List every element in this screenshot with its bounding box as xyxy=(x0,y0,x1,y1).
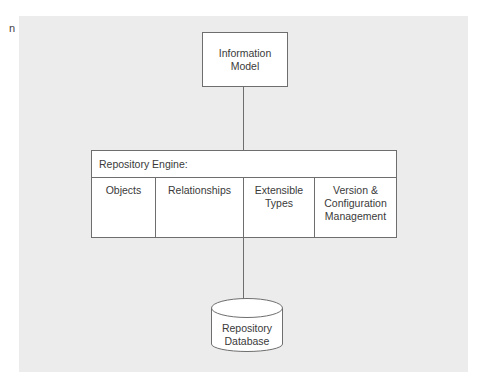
component-relationships: Relationships xyxy=(156,178,244,237)
connector-model-to-engine xyxy=(243,87,244,150)
component-label: Objects xyxy=(92,184,155,197)
connector-engine-to-database xyxy=(243,238,244,300)
repository-database-cylinder: Repository Database xyxy=(211,298,283,352)
component-label: Relationships xyxy=(156,184,243,197)
component-label: Management xyxy=(315,210,396,223)
component-label: Types xyxy=(244,197,314,210)
cropped-caption-fragment: n xyxy=(7,22,15,34)
information-model-box: Information Model xyxy=(202,32,288,87)
repository-engine-components: Objects Relationships Extensible Types V… xyxy=(92,178,396,237)
component-label: Configuration xyxy=(315,197,396,210)
repository-engine-title: Repository Engine: xyxy=(99,158,188,171)
repository-database-label-line-1: Repository xyxy=(211,322,283,335)
component-objects: Objects xyxy=(92,178,156,237)
repository-database-label: Repository Database xyxy=(211,322,283,348)
repository-database-label-line-2: Database xyxy=(211,335,283,348)
component-extensible-types: Extensible Types xyxy=(244,178,315,237)
component-version-configuration-management: Version & Configuration Management xyxy=(315,178,396,237)
component-label: Extensible xyxy=(244,184,314,197)
information-model-label-line-2: Model xyxy=(219,60,272,73)
component-label: Version & xyxy=(315,184,396,197)
information-model-label-line-1: Information xyxy=(219,47,272,60)
repository-engine-box: Repository Engine: Objects Relationships… xyxy=(91,150,397,238)
repository-engine-header: Repository Engine: xyxy=(92,151,396,178)
